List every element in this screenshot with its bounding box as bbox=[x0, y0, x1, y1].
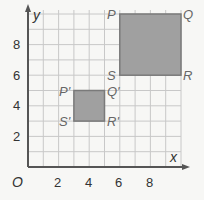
coordinate-plane: y x O 2 4 6 8 2 4 6 8 P Q R S P' Q' R' S… bbox=[0, 0, 204, 200]
vertex-label-p-prime: P' bbox=[59, 84, 71, 99]
y-axis-label: y bbox=[32, 7, 41, 23]
vertex-label-s-prime: S' bbox=[59, 114, 71, 129]
graph-svg: y x O 2 4 6 8 2 4 6 8 P Q R S P' Q' R' S… bbox=[0, 0, 204, 200]
x-tick-4: 4 bbox=[85, 175, 92, 190]
x-tick-8: 8 bbox=[146, 175, 153, 190]
y-tick-2: 2 bbox=[13, 129, 20, 144]
origin-label: O bbox=[12, 174, 23, 190]
square-pqrs bbox=[120, 14, 181, 75]
x-tick-2: 2 bbox=[54, 175, 61, 190]
x-axis-label: x bbox=[169, 149, 178, 165]
y-tick-6: 6 bbox=[13, 68, 20, 83]
vertex-label-s: S bbox=[107, 68, 116, 83]
vertex-label-q-prime: Q' bbox=[107, 84, 120, 99]
vertex-label-r: R bbox=[183, 68, 192, 83]
square-pqrs-prime bbox=[74, 91, 105, 122]
y-tick-4: 4 bbox=[13, 98, 20, 113]
vertex-label-r-prime: R' bbox=[107, 114, 119, 129]
vertex-label-p: P bbox=[107, 7, 116, 22]
vertex-label-q: Q bbox=[183, 7, 193, 22]
y-tick-8: 8 bbox=[13, 37, 20, 52]
x-tick-6: 6 bbox=[115, 175, 122, 190]
